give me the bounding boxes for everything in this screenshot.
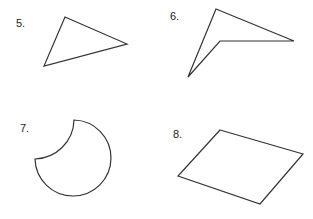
triangle-shape — [44, 17, 127, 66]
concave-quadrilateral-shape — [188, 9, 294, 77]
shapes-canvas — [0, 0, 313, 219]
parallelogram-shape — [178, 130, 303, 204]
circle-with-concave-arc-shape — [35, 120, 111, 196]
